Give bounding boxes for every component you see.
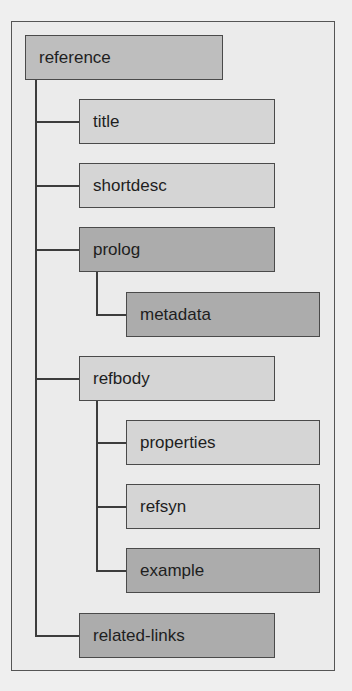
node-label: reference [39,49,111,66]
root-trunk-line [35,80,37,636]
node-title: title [79,99,275,144]
node-label: example [140,562,204,579]
connector-shortdesc [35,185,79,187]
node-shortdesc: shortdesc [79,163,275,208]
node-label: refbody [93,370,150,387]
connector-properties [96,442,126,444]
node-refbody: refbody [79,356,275,401]
connector-related-links [35,635,79,637]
node-label: refsyn [140,498,186,515]
connector-title [35,121,79,123]
node-reference: reference [25,35,223,80]
connector-prolog [35,249,79,251]
node-refsyn: refsyn [126,484,320,529]
node-prolog: prolog [79,227,275,272]
node-label: related-links [93,627,185,644]
refbody-branch-line [96,401,98,571]
node-label: metadata [140,306,211,323]
node-metadata: metadata [126,292,320,337]
node-properties: properties [126,420,320,465]
connector-metadata [96,314,126,316]
connector-example [96,570,126,572]
node-example: example [126,548,320,593]
node-related-links: related-links [79,613,275,658]
connector-refsyn [96,506,126,508]
prolog-branch-line [96,272,98,315]
node-label: shortdesc [93,177,167,194]
node-label: prolog [93,241,140,258]
node-label: title [93,113,119,130]
node-label: properties [140,434,216,451]
connector-refbody [35,378,79,380]
